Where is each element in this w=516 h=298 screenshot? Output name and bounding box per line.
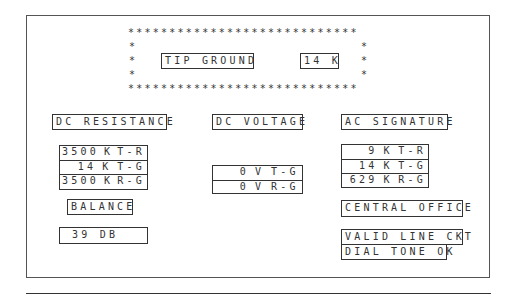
table-row: 0 V R-G [213, 180, 302, 194]
status-valid-line: VALID LINE CKT [341, 229, 463, 245]
test-name-label: TIP GROUND [161, 53, 254, 69]
banner-right-star: * [361, 70, 367, 80]
resistance-pair: T-G [117, 161, 145, 174]
resistance-unit: K [104, 175, 117, 188]
signature-value: 9 [344, 145, 377, 159]
voltage-unit: V [255, 166, 271, 180]
resistance-unit: K [104, 146, 117, 160]
voltage-pair: R-G [271, 181, 299, 194]
resistance-value: 3500 [62, 146, 98, 160]
table-row: 14 K T-G [342, 159, 428, 173]
voltage-pair: T-G [271, 166, 299, 180]
signature-value: 14 [344, 160, 377, 173]
signature-value: 629 [344, 174, 377, 187]
dc-voltage-title: DC VOLTAGE [212, 114, 303, 130]
voltage-value: 0 [215, 166, 249, 180]
test-value-label: 14 K [300, 53, 339, 69]
ac-signature-table: 9 K T-R 14 K T-G 629 K R-G [341, 144, 429, 188]
signature-unit: K [383, 160, 398, 173]
banner-left-star: * [129, 42, 135, 52]
status-dial-tone: DIAL TONE OK [341, 244, 447, 260]
voltage-unit: V [255, 181, 271, 194]
table-row: 3500 K T-R [60, 146, 147, 160]
table-row: 9 K T-R [342, 145, 428, 159]
resistance-value: 3500 [62, 175, 98, 188]
banner-left-star: * [129, 70, 135, 80]
resistance-pair: T-R [117, 146, 145, 160]
banner-bottom-border: * * * * * * * * * * * * * * * * * * * * … [128, 84, 355, 94]
signature-unit: K [383, 145, 398, 159]
voltage-value: 0 [215, 181, 249, 194]
table-row: 0 V T-G [213, 166, 302, 180]
banner-right-star: * [361, 56, 367, 66]
ac-signature-title: AC SIGNATURE [341, 114, 448, 130]
signature-pair: T-G [398, 160, 426, 173]
signature-pair: T-R [398, 145, 426, 159]
resistance-unit: K [102, 161, 117, 174]
balance-title: BALANCE [67, 199, 133, 215]
banner-right-star: * [361, 42, 367, 52]
signature-pair: R-G [398, 174, 426, 187]
dc-resistance-table: 3500 K T-R 14 K T-G 3500 K R-G [59, 145, 148, 190]
table-row: 3500 K R-G [60, 174, 147, 188]
dc-resistance-title: DC RESISTANCE [52, 114, 167, 130]
resistance-pair: R-G [117, 175, 145, 188]
balance-value: 39 DB [59, 227, 148, 244]
table-row: 14 K T-G [60, 160, 147, 174]
dc-voltage-table: 0 V T-G 0 V R-G [212, 165, 303, 194]
central-office-title: CENTRAL OFFICE [341, 200, 463, 217]
signature-unit: K [383, 174, 398, 187]
banner-top-border: * * * * * * * * * * * * * * * * * * * * … [128, 28, 355, 38]
resistance-value: 14 [62, 161, 96, 174]
banner-left-star: * [129, 56, 135, 66]
table-row: 629 K R-G [342, 173, 428, 187]
bottom-divider [26, 293, 491, 294]
